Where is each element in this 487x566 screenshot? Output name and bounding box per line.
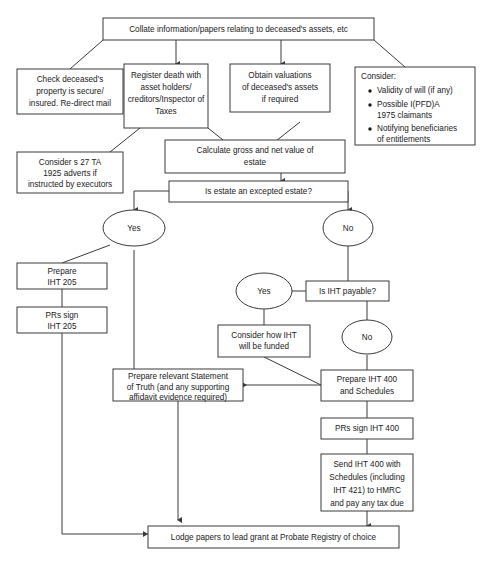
node-no-iht: No — [342, 320, 392, 354]
node-collate-information-line1: Collate information/papers relating to d… — [129, 25, 348, 34]
node-prepare-205-line1: Prepare — [47, 267, 77, 276]
node-lodge-papers-line1: Lodge papers to lead grant at Probate Re… — [171, 533, 377, 542]
node-calculate-value-line2: estate — [244, 158, 267, 167]
node-consider-list-heading: Consider: — [361, 72, 396, 81]
node-register-death-line3: creditors/Inspector of — [128, 95, 205, 104]
bullet-icon — [368, 89, 371, 92]
node-obtain-valuations-line1: Obtain valuations — [248, 71, 311, 80]
node-prs-sign-205: PRs sign IHT 205 — [17, 307, 107, 333]
node-send-400-line2: Schedules (including — [329, 473, 405, 482]
node-yes-iht-label: Yes — [257, 287, 270, 296]
node-prs-sign-400-line1: PRs sign IHT 400 — [335, 424, 399, 433]
connector-register-death-to-consider-s27 — [110, 128, 140, 152]
node-send-400-line3: IHT 421) to HMRC — [333, 486, 401, 495]
node-prs-sign-205-line2: IHT 205 — [48, 322, 77, 331]
node-check-property-line2: property is secure/ — [36, 87, 104, 96]
node-collate-information: Collate information/papers relating to d… — [103, 18, 374, 40]
node-prepare-400-line1: Prepare IHT 400 — [337, 375, 398, 384]
connector-collate-to-check-property — [70, 40, 103, 69]
node-no-iht-label: No — [362, 333, 373, 342]
node-consider-funding-line2: will be funded — [238, 342, 290, 351]
node-excepted-estate: Is estate an excepted estate? — [169, 181, 348, 202]
node-consider-s27-line2: 1925 adverts if — [43, 169, 97, 178]
node-prepare-400-line2: and Schedules — [340, 387, 394, 396]
node-send-400: Send IHT 400 with Schedules (including I… — [321, 454, 413, 511]
node-consider-list: Consider: Validity of will (if any) Poss… — [355, 67, 475, 145]
connector-excepted-to-yes — [134, 191, 169, 210]
connector-collate-to-consider-list — [374, 40, 405, 67]
node-statement-of-truth: Prepare relevant Statement of Truth (and… — [113, 369, 243, 402]
node-prs-sign-205-line1: PRs sign — [46, 311, 79, 320]
node-consider-item-2-line-0: Notifying beneficiaries — [377, 124, 457, 133]
node-calculate-value: Calculate gross and net value of estate — [165, 140, 345, 173]
node-obtain-valuations-line3: if required — [262, 95, 299, 104]
node-yes-excepted: Yes — [103, 210, 165, 246]
node-statement-of-truth-line3: affidavit evidence required) — [129, 393, 227, 402]
node-consider-item-0-line-0: Validity of will (if any) — [377, 86, 453, 95]
node-consider-s27-line1: Consider s 27 TA — [39, 158, 102, 167]
node-consider-funding-line1: Consider how IHT — [231, 331, 297, 340]
node-prepare-205: Prepare IHT 205 — [17, 263, 107, 289]
connector-yes-to-prepare-205 — [62, 245, 110, 263]
node-iht-payable: Is IHT payable? — [306, 281, 389, 301]
node-register-death-line4: Taxes — [155, 107, 176, 116]
node-prepare-205-line2: IHT 205 — [48, 278, 77, 287]
node-check-property-line1: Check deceased's — [37, 75, 104, 84]
node-statement-of-truth-line1: Prepare relevant Statement — [128, 372, 229, 381]
node-statement-of-truth-line2: of Truth (and any supporting — [127, 383, 230, 392]
node-register-death-line2: asset holders/ — [141, 83, 193, 92]
node-prs-sign-400: PRs sign IHT 400 — [321, 418, 413, 439]
node-yes-iht: Yes — [236, 273, 292, 309]
node-consider-item-1-line-0: Possible I(PFD)A — [377, 100, 440, 109]
node-check-property-line3: insured. Re-direct mail — [29, 99, 111, 108]
node-check-property: Check deceased's property is secure/ ins… — [17, 69, 123, 114]
bullet-icon — [368, 103, 371, 106]
bullet-icon — [368, 127, 371, 130]
node-no-excepted-label: No — [343, 224, 354, 233]
node-consider-item-2-line-1: of entitlements — [377, 135, 430, 144]
connector-consider-funding-to-prepare-400 — [264, 357, 321, 385]
node-yes-excepted-label: Yes — [127, 224, 140, 233]
node-consider-funding: Consider how IHT will be funded — [218, 325, 310, 357]
node-consider-s27-line3: instructed by executors — [28, 180, 112, 189]
node-register-death-line1: Register death with — [131, 71, 202, 80]
node-excepted-estate-line1: Is estate an excepted estate? — [205, 187, 312, 196]
node-register-death: Register death with asset holders/ credi… — [124, 64, 208, 128]
node-lodge-papers: Lodge papers to lead grant at Probate Re… — [148, 526, 399, 548]
node-send-400-line4: and pay any tax due — [330, 499, 404, 508]
node-obtain-valuations: Obtain valuations of deceased's assets i… — [230, 64, 330, 112]
flowchart-canvas: Collate information/papers relating to d… — [0, 0, 487, 566]
flowchart-svg: Collate information/papers relating to d… — [0, 0, 487, 566]
node-send-400-line1: Send IHT 400 with — [333, 460, 401, 469]
node-consider-s27: Consider s 27 TA 1925 adverts if instruc… — [17, 152, 123, 193]
connector-prs-sign-205-to-lodge — [62, 333, 148, 534]
node-calculate-value-line1: Calculate gross and net value of — [197, 146, 315, 155]
node-prepare-400: Prepare IHT 400 and Schedules — [321, 370, 413, 401]
node-obtain-valuations-line2: of deceased's assets — [242, 83, 318, 92]
node-consider-item-1-line-1: 1975 claimants — [377, 111, 432, 120]
node-iht-payable-line1: Is IHT payable? — [319, 287, 377, 296]
node-no-excepted: No — [323, 210, 373, 246]
